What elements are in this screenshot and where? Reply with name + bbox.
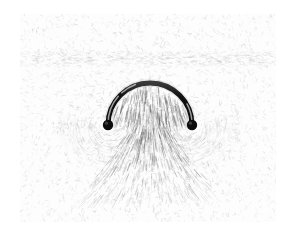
figure-root — [0, 0, 296, 235]
left-terminal-post — [103, 120, 113, 130]
right-terminal-post — [187, 120, 197, 130]
iron-filings-plate — [20, 14, 276, 222]
magnetic-field-photograph — [20, 14, 276, 222]
